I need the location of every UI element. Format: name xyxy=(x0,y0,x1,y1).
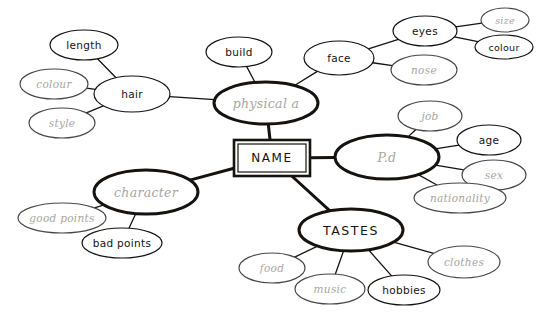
node-ellipse-tastes[interactable] xyxy=(299,209,403,251)
node-ellipse-hair[interactable] xyxy=(94,76,170,112)
node-ellipse-clothes[interactable] xyxy=(428,246,500,278)
node-ellipse-build[interactable] xyxy=(206,37,272,67)
edge-pd-to-age xyxy=(435,145,458,149)
node-ellipse-eyes[interactable] xyxy=(393,16,457,46)
edge-tastes-to-hobbies xyxy=(368,250,391,276)
edge-tastes-to-clothes xyxy=(394,242,434,253)
mind-map-canvas xyxy=(0,0,548,316)
edge-pd-to-sex xyxy=(435,165,464,170)
edge-pd-to-nationality xyxy=(418,175,437,185)
node-ellipse-pd[interactable] xyxy=(335,135,439,179)
edge-hair-to-style xyxy=(86,106,103,113)
edge-center-to-physical_a xyxy=(268,124,270,140)
edge-face-to-nose xyxy=(373,63,393,66)
edge-physical_a-to-face xyxy=(294,71,317,85)
edge-tastes-to-music xyxy=(335,251,343,274)
edge-tastes-to-food xyxy=(295,246,318,257)
node-ellipse-good_points[interactable] xyxy=(18,203,106,233)
edge-eyes-to-eye_colour xyxy=(454,37,478,42)
node-ellipse-hair_colour[interactable] xyxy=(20,69,88,99)
node-ellipse-bad_points[interactable] xyxy=(82,228,162,258)
node-ellipse-music[interactable] xyxy=(295,274,365,304)
edge-character-to-bad_points xyxy=(129,214,136,229)
edge-center-to-character xyxy=(190,168,234,180)
node-ellipse-character[interactable] xyxy=(94,170,198,214)
edge-physical_a-to-build xyxy=(247,67,255,83)
node-ellipse-food[interactable] xyxy=(239,253,305,283)
node-ellipse-eye_colour[interactable] xyxy=(475,35,533,59)
edge-center-to-tastes xyxy=(292,176,330,211)
edge-hair-to-length xyxy=(97,59,116,78)
node-ellipse-nose[interactable] xyxy=(391,55,457,85)
node-ellipse-length[interactable] xyxy=(50,30,118,60)
center-node-inner-border xyxy=(238,144,306,172)
node-ellipse-style[interactable] xyxy=(29,108,95,138)
edge-physical_a-to-hair xyxy=(170,97,215,100)
center-node-group[interactable] xyxy=(234,140,310,176)
node-ellipse-job[interactable] xyxy=(398,101,462,131)
edge-eyes-to-eye_size xyxy=(456,23,482,27)
edge-face-to-eyes xyxy=(368,39,398,48)
node-ellipse-physical_a[interactable] xyxy=(214,82,318,124)
edge-hair-to-hair_colour xyxy=(87,88,96,89)
node-ellipse-nationality[interactable] xyxy=(414,183,506,213)
node-ellipse-hobbies[interactable] xyxy=(368,275,440,305)
node-ellipse-age[interactable] xyxy=(457,125,521,155)
node-ellipse-eye_size[interactable] xyxy=(481,8,529,32)
node-ellipse-face[interactable] xyxy=(304,41,374,75)
